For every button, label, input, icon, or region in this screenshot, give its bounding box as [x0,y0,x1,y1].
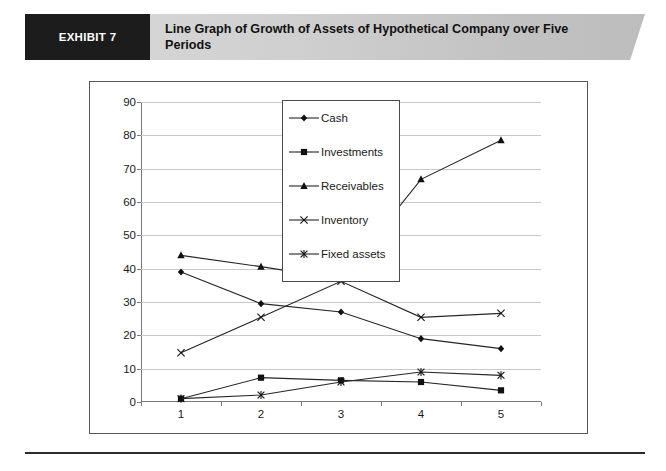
x-tick-label: 5 [486,408,516,420]
y-tick-label: 80 [96,129,136,141]
y-tick-label: 70 [96,163,136,175]
x-tick-mark [301,402,302,406]
legend-marker-x-icon [287,213,321,227]
chart-frame: 0102030405060708090 12345 CashInvestment… [89,81,588,434]
y-tick-label: 20 [96,329,136,341]
legend-label: Investments [321,146,383,158]
y-tick-label: 10 [96,363,136,375]
data-point-x [257,314,264,321]
x-tick-label: 3 [326,408,356,420]
data-point-diamond [258,300,264,307]
data-point-diamond [338,308,344,315]
legend-label: Fixed assets [321,248,386,260]
data-point-square [258,375,264,381]
data-point-diamond [301,114,307,121]
y-tick-label: 60 [96,196,136,208]
plot-area: 0102030405060708090 12345 CashInvestment… [141,102,541,402]
data-point-diamond [498,345,504,352]
legend-item-receivables[interactable]: Receivables [287,176,399,196]
y-tick-label: 90 [96,96,136,108]
exhibit-header: EXHIBIT 7 Line Graph of Growth of Assets… [25,14,645,60]
data-point-x [177,349,184,356]
y-tick-label: 0 [96,396,136,408]
legend-marker-square-icon [287,145,321,159]
data-point-diamond [178,268,184,275]
exhibit-title: Line Graph of Growth of Assets of Hypoth… [165,21,595,53]
y-tick-label: 30 [96,296,136,308]
y-tick-label: 50 [96,229,136,241]
data-point-square [418,379,424,385]
x-tick-mark [141,402,142,406]
legend-item-cash[interactable]: Cash [287,108,399,128]
x-tick-label: 1 [166,408,196,420]
legend-marker-asterisk-icon [287,247,321,261]
data-point-diamond [418,335,424,342]
exhibit-badge: EXHIBIT 7 [25,14,150,60]
legend-marker-triangle-icon [287,179,321,193]
x-tick-mark [541,402,542,406]
x-tick-mark [221,402,222,406]
legend-label: Inventory [321,214,368,226]
y-tick-label: 40 [96,263,136,275]
legend-label: Cash [321,112,348,124]
data-point-triangle [177,251,184,258]
legend-item-fixed-assets[interactable]: Fixed assets [287,244,399,264]
bottom-rule [25,452,645,454]
data-point-triangle [417,175,424,182]
exhibit-badge-label: EXHIBIT 7 [59,31,117,43]
data-point-triangle [497,136,504,143]
x-tick-mark [461,402,462,406]
legend-marker-diamond-icon [287,111,321,125]
chart-legend: CashInvestmentsReceivablesInventoryFixed… [282,100,400,282]
data-point-square [498,387,504,393]
x-tick-label: 4 [406,408,436,420]
x-tick-mark [381,402,382,406]
x-tick-label: 2 [246,408,276,420]
data-point-square [301,149,307,155]
legend-item-investments[interactable]: Investments [287,142,399,162]
legend-item-inventory[interactable]: Inventory [287,210,399,230]
legend-label: Receivables [321,180,384,192]
series-line-inventory [181,281,501,352]
